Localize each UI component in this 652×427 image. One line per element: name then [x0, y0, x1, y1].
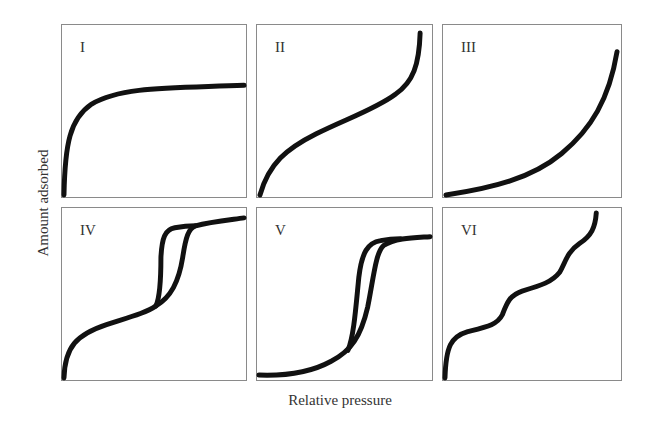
type-v-adsorption-branch: [259, 237, 430, 376]
type-i-curve: [64, 85, 244, 195]
panel-type-v: V: [256, 207, 433, 381]
type-iv-desorption-branch: [156, 226, 196, 306]
y-axis-label: Amount adsorbed: [35, 149, 52, 256]
panel-type-i: I: [61, 24, 247, 198]
panel-label-i: I: [80, 39, 85, 56]
panel-label-vi: VI: [461, 222, 477, 239]
panel-label-ii: II: [275, 39, 285, 56]
panel-type-vi: VI: [442, 207, 622, 381]
panel-type-ii: II: [256, 24, 433, 198]
panel-type-iv: IV: [61, 207, 247, 381]
type-i-curve-plot: [62, 25, 246, 197]
type-iii-curve: [446, 52, 617, 195]
x-axis-label: Relative pressure: [288, 392, 392, 409]
type-iv-adsorption-branch: [64, 218, 244, 378]
panel-type-iii: III: [442, 24, 622, 198]
adsorption-isotherm-figure: I II III IV V VI Amount a: [0, 0, 652, 427]
panel-label-iv: IV: [80, 222, 96, 239]
type-ii-curve: [260, 33, 420, 195]
panel-label-v: V: [275, 222, 286, 239]
type-v-desorption-branch: [348, 239, 400, 351]
panel-label-iii: III: [461, 39, 476, 56]
